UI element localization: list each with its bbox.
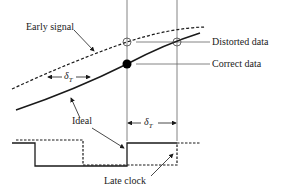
delta-t-upper: δT — [63, 71, 74, 84]
distorted-data-label: Distorted data — [212, 37, 268, 47]
early-signal-arrow — [74, 30, 94, 51]
early-signal-label: Early signal — [26, 22, 74, 32]
late-clock-label: Late clock — [104, 176, 146, 186]
correct-data-label: Correct data — [212, 59, 261, 69]
ideal-label: Ideal — [72, 116, 92, 126]
ideal-clock-waveform — [12, 143, 177, 166]
early-signal-curve — [12, 27, 205, 89]
delta-t-lower: δT — [143, 117, 154, 130]
correct-data-point — [123, 60, 132, 69]
ideal-signal-curve — [16, 33, 200, 110]
late-clock-waveform — [16, 140, 200, 165]
late-clock-arrow — [151, 154, 173, 176]
ideal-arrow-down — [92, 128, 124, 148]
timing-diagram: Early signal Distorted data Correct data… — [0, 0, 282, 190]
